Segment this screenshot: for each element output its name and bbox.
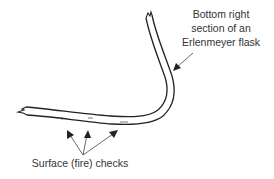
flask-wall-inner-edge (26, 18, 167, 117)
checks-pointer-arrows (67, 130, 118, 155)
flask-section-diagram: Bottom right section of an Erlenmeyer fl… (0, 0, 274, 179)
flask-pointer-arrow-line (177, 53, 193, 67)
flask-label-line-3: Erlenmeyer flask (182, 36, 261, 48)
flask-broken-end-top (146, 12, 152, 18)
surface-checks-label: Surface (fire) checks (32, 157, 128, 169)
flask-wall-outer-edge (27, 15, 174, 124)
flask-label-line-1: Bottom right (193, 8, 250, 20)
flask-label-line-2: section of an (191, 22, 251, 34)
flask-broken-end-left (18, 107, 27, 115)
